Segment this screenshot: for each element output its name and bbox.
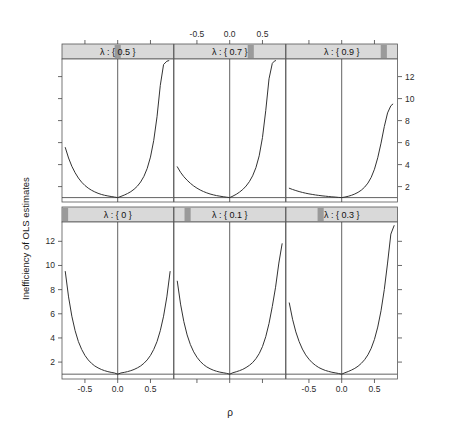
y-tick-label: 12 [46,236,56,246]
panel-top-left: λ : { 0.5 } [62,44,173,202]
panels-layer: λ : { 0 }λ : { 0.1 }λ : { 0.3 }λ : { 0.5… [62,44,397,379]
panel-bottom-middle: λ : { 0.1 } [174,207,285,379]
strip-label-bottom-left: λ : { 0 } [104,210,132,220]
strip-marker-top-middle [248,45,254,58]
y-axis-label: Inefficiency of OLS estimates [20,177,31,300]
strip-marker-bottom-right [318,208,324,221]
panel-bottom-left: λ : { 0 } [62,207,173,379]
y-tick-label: 8 [405,116,410,126]
x-tick-label: 0.0 [336,384,348,394]
y-tick-label: 8 [50,285,55,295]
strip-marker-bottom-left [62,208,68,221]
y-tick-label: 4 [405,160,410,170]
y-tick-label: 6 [50,309,55,319]
strip-label-bottom-middle: λ : { 0.1 } [212,210,248,220]
y-tick-label: 12 [405,72,415,82]
strip-marker-top-right [381,45,387,58]
figure-canvas: λ : { 0 }λ : { 0.1 }λ : { 0.3 }λ : { 0.5… [0,0,455,434]
x-tick-label: -0.5 [190,29,205,39]
x-tick-label: 0.0 [224,29,236,39]
strip-label-top-left: λ : { 0.5 } [100,47,136,57]
x-tick-label: -0.5 [78,384,93,394]
x-tick-label: 0.0 [112,384,124,394]
strip-label-top-right: λ : { 0.9 } [324,47,360,57]
x-axis-label: ρ [227,407,233,418]
trellis-figure: λ : { 0 }λ : { 0.1 }λ : { 0.3 }λ : { 0.5… [0,0,455,434]
panel-top-middle: λ : { 0.7 } [174,44,285,202]
strip-marker-bottom-middle [185,208,191,221]
y-tick-label: 2 [50,357,55,367]
x-tick-label: -0.5 [302,384,317,394]
y-tick-label: 4 [50,333,55,343]
strip-label-top-middle: λ : { 0.7 } [212,47,248,57]
panel-bottom-right: λ : { 0.3 } [286,207,397,379]
x-tick-label: 0.5 [145,384,157,394]
y-tick-label: 2 [405,182,410,192]
y-tick-label: 10 [46,260,56,270]
panel-top-right: λ : { 0.9 } [286,44,397,202]
x-tick-label: 0.5 [257,29,269,39]
strip-label-bottom-right: λ : { 0.3 } [324,210,360,220]
y-tick-label: 10 [405,94,415,104]
y-tick-label: 6 [405,138,410,148]
x-tick-label: 0.5 [369,384,381,394]
